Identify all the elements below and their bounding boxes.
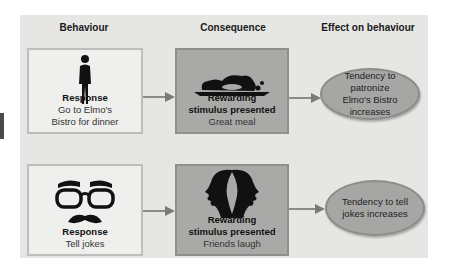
groucho-glasses-icon: [54, 178, 116, 228]
consequence-text: Rewarding stimulus presented Friends lau…: [177, 214, 287, 250]
effect-line2: Elmo's Bistro increases: [328, 94, 412, 118]
consequence-text: Rewarding stimulus presented Great meal: [177, 92, 287, 128]
behaviour-text: Response Go to Elmo's Bistro for dinner: [29, 92, 141, 128]
edge-mark: [0, 113, 4, 139]
response-line1: Tell jokes: [29, 238, 141, 250]
stimulus-sub: Friends laugh: [177, 238, 287, 250]
arrow-behaviour-to-consequence: [143, 210, 173, 212]
stimulus-sub: Great meal: [177, 116, 287, 128]
effect-text: Tendency to patronize Elmo's Bistro incr…: [328, 70, 412, 118]
arrow-consequence-to-effect: [289, 208, 323, 210]
laughing-faces-icon: [197, 168, 267, 218]
stimulus-title-2: stimulus presented: [177, 226, 287, 238]
behaviour-box-dinner: Response Go to Elmo's Bistro for dinner: [27, 48, 143, 134]
stimulus-title-1: Rewarding: [177, 214, 287, 226]
effect-line1: Tendency to patronize: [328, 70, 412, 94]
effect-ellipse-bistro: Tendency to patronize Elmo's Bistro incr…: [320, 68, 420, 120]
behaviour-box-jokes: Response Tell jokes: [27, 164, 143, 256]
behaviour-text: Response Tell jokes: [29, 226, 141, 250]
effect-text: Tendency to tell jokes increases: [342, 196, 408, 220]
header-behaviour: Behaviour: [54, 22, 114, 33]
response-title: Response: [29, 226, 141, 238]
arrow-behaviour-to-consequence: [143, 96, 173, 98]
effect-line1: Tendency to tell: [342, 196, 408, 208]
response-line2: Bistro for dinner: [29, 116, 141, 128]
header-effect: Effect on behaviour: [318, 22, 418, 33]
effect-line2: jokes increases: [342, 208, 408, 220]
stimulus-title-2: stimulus presented: [177, 104, 287, 116]
consequence-box-meal: Rewarding stimulus presented Great meal: [175, 48, 289, 134]
effect-ellipse-jokes: Tendency to tell jokes increases: [325, 180, 425, 236]
arrow-consequence-to-effect: [289, 97, 319, 99]
response-title: Response: [29, 92, 141, 104]
consequence-box-laugh: Rewarding stimulus presented Friends lau…: [175, 164, 289, 256]
header-consequence: Consequence: [195, 22, 271, 33]
stimulus-title-1: Rewarding: [177, 92, 287, 104]
response-line1: Go to Elmo's: [29, 104, 141, 116]
